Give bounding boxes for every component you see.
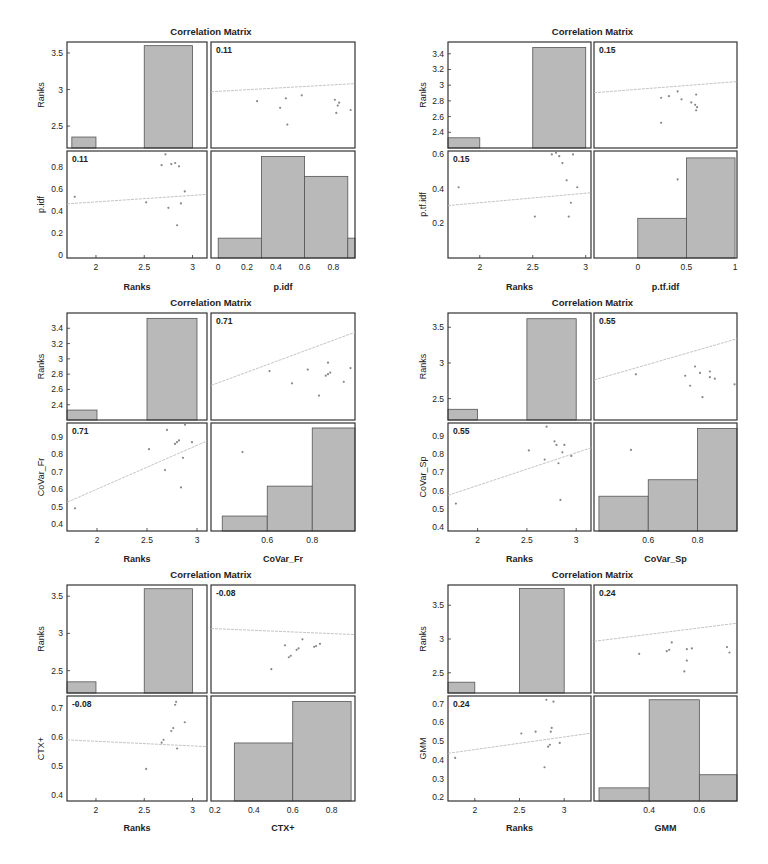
correlation-value: -0.08 — [216, 588, 236, 598]
svg-text:0.4: 0.4 — [248, 805, 260, 815]
correlation-figure: Correlation Matrix2.533.50.110.1100.20.4… — [0, 0, 768, 864]
svg-text:0.8: 0.8 — [432, 449, 444, 459]
svg-text:3.4: 3.4 — [51, 323, 63, 333]
svg-text:0: 0 — [58, 250, 63, 260]
svg-text:0.4: 0.4 — [432, 755, 444, 765]
scatter-GMM-vs-ranks: 0.240.20.30.40.50.60.722.53 — [432, 696, 591, 815]
x-axis-label: p.tf.idf — [652, 282, 680, 292]
correlation-value: 0.55 — [599, 316, 616, 326]
svg-text:3.4: 3.4 — [432, 49, 444, 59]
p.idf-histogram: 00.20.40.60.8 — [211, 151, 355, 272]
svg-text:0.6: 0.6 — [287, 805, 299, 815]
x-axis-label: p.idf — [274, 282, 294, 292]
scatter-CTX+-vs-ranks: -0.080.40.50.60.722.53 — [51, 695, 207, 815]
panel-title: Correlation Matrix — [552, 297, 634, 308]
svg-text:0.4: 0.4 — [432, 522, 444, 532]
svg-text:2.5: 2.5 — [514, 805, 526, 815]
svg-text:0.9: 0.9 — [51, 432, 63, 442]
svg-text:2: 2 — [475, 535, 480, 545]
svg-text:3: 3 — [190, 805, 195, 815]
svg-text:3: 3 — [58, 628, 63, 638]
y-axis-label: Ranks — [36, 626, 46, 652]
svg-text:2.8: 2.8 — [51, 369, 63, 379]
svg-text:3.5: 3.5 — [432, 600, 444, 610]
svg-text:3: 3 — [583, 262, 588, 272]
svg-text:2: 2 — [94, 805, 99, 815]
GMM-histogram: 0.40.6 — [594, 696, 737, 815]
x-axis-label: CTX+ — [271, 823, 294, 833]
svg-text:1: 1 — [733, 262, 738, 272]
panel-title: Correlation Matrix — [552, 569, 634, 580]
svg-text:3.5: 3.5 — [51, 591, 63, 601]
svg-text:0.9: 0.9 — [432, 431, 444, 441]
svg-text:2.6: 2.6 — [432, 112, 444, 122]
svg-text:0.6: 0.6 — [432, 149, 444, 159]
svg-text:2.5: 2.5 — [138, 805, 150, 815]
y-axis-label: Ranks — [418, 82, 428, 108]
svg-text:2.5: 2.5 — [138, 262, 150, 272]
svg-text:2.5: 2.5 — [527, 262, 539, 272]
svg-text:3: 3 — [439, 358, 444, 368]
svg-text:2.5: 2.5 — [51, 666, 63, 676]
svg-text:0.6: 0.6 — [51, 732, 63, 742]
svg-text:2: 2 — [472, 805, 477, 815]
svg-text:0.4: 0.4 — [51, 206, 63, 216]
svg-text:2.5: 2.5 — [521, 535, 533, 545]
scatter-p.idf-vs-ranks: 0.1100.20.40.60.822.53 — [51, 151, 207, 272]
svg-text:0.2: 0.2 — [432, 792, 444, 802]
panel-title: Correlation Matrix — [170, 26, 252, 37]
panel-title: Correlation Matrix — [170, 297, 252, 308]
correlation-panel-6: Correlation Matrix2.533.50.240.240.20.30… — [418, 569, 737, 833]
svg-text:2.5: 2.5 — [432, 394, 444, 404]
y-axis-label: CTX+ — [36, 737, 46, 760]
correlation-panel-3: Correlation Matrix2.42.62.833.23.40.710.… — [36, 297, 355, 564]
correlation-panel-2: Correlation Matrix2.42.62.833.23.40.150.… — [418, 26, 738, 292]
svg-text:2.4: 2.4 — [51, 400, 63, 410]
svg-text:0.7: 0.7 — [432, 467, 444, 477]
svg-text:3: 3 — [58, 85, 63, 95]
CTX+-histogram: 0.20.40.60.8 — [209, 696, 355, 815]
svg-text:0.4: 0.4 — [270, 262, 282, 272]
correlation-panel-4: Correlation Matrix2.533.50.550.550.40.50… — [418, 297, 737, 564]
svg-text:0.8: 0.8 — [51, 449, 63, 459]
svg-text:2: 2 — [95, 535, 100, 545]
svg-text:2.5: 2.5 — [141, 535, 153, 545]
correlation-value: 0.55 — [453, 426, 470, 436]
panel-title: Correlation Matrix — [552, 26, 634, 37]
svg-text:3.5: 3.5 — [51, 48, 63, 58]
svg-text:0.8: 0.8 — [326, 805, 338, 815]
svg-text:2.5: 2.5 — [51, 121, 63, 131]
svg-text:0.4: 0.4 — [432, 184, 444, 194]
svg-text:0.6: 0.6 — [51, 484, 63, 494]
svg-text:3.2: 3.2 — [51, 339, 63, 349]
svg-text:2: 2 — [94, 262, 99, 272]
correlation-value: -0.08 — [72, 699, 92, 709]
svg-text:3: 3 — [190, 262, 195, 272]
svg-text:0.5: 0.5 — [51, 502, 63, 512]
svg-text:0.4: 0.4 — [51, 790, 63, 800]
svg-text:0.6: 0.6 — [432, 717, 444, 727]
correlation-value: 0.71 — [72, 426, 89, 436]
x-axis-label: Ranks — [123, 282, 150, 292]
svg-text:0.2: 0.2 — [51, 228, 63, 238]
correlation-value: 0.15 — [453, 154, 470, 164]
svg-text:0.8: 0.8 — [692, 535, 704, 545]
svg-text:0.4: 0.4 — [643, 805, 655, 815]
svg-text:3.2: 3.2 — [432, 64, 444, 74]
svg-text:3: 3 — [58, 354, 63, 364]
svg-text:0.8: 0.8 — [327, 262, 339, 272]
svg-text:3: 3 — [195, 535, 200, 545]
svg-text:0.6: 0.6 — [693, 805, 705, 815]
svg-text:0.5: 0.5 — [432, 736, 444, 746]
ranks-histogram: 2.533.5 — [432, 585, 591, 693]
svg-text:0.2: 0.2 — [209, 805, 221, 815]
svg-text:3: 3 — [439, 80, 444, 90]
svg-text:0.6: 0.6 — [51, 184, 63, 194]
svg-text:2.5: 2.5 — [432, 668, 444, 678]
x-axis-label: Ranks — [123, 823, 150, 833]
y-axis-label: Ranks — [36, 353, 46, 379]
x-axis-label: CoVar_Fr — [263, 554, 304, 564]
y-axis-label: p.tf.idf — [418, 192, 428, 217]
svg-text:0.6: 0.6 — [642, 535, 654, 545]
svg-text:3.5: 3.5 — [432, 322, 444, 332]
